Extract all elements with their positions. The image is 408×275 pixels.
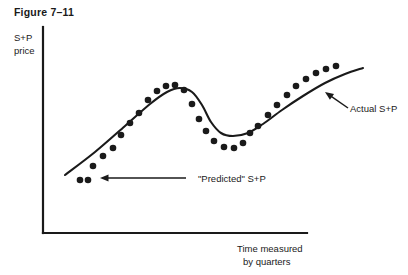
data-point-marker <box>255 123 262 130</box>
data-point-marker <box>181 87 188 94</box>
data-point-marker <box>303 76 310 83</box>
data-point-marker <box>127 120 134 127</box>
figure-container: Figure 7–11 S+P price Time measured by q… <box>0 0 408 275</box>
x-axis-label-group: Time measured by quarters <box>237 243 303 267</box>
data-point-marker <box>110 145 117 152</box>
predicted-sp-dots <box>77 63 340 184</box>
data-point-marker <box>240 140 247 147</box>
data-point-marker <box>211 138 218 145</box>
data-point-marker <box>203 128 210 135</box>
data-point-marker <box>196 116 203 123</box>
actual-sp-curve <box>65 68 363 175</box>
data-point-marker <box>77 177 84 184</box>
data-point-marker <box>85 177 92 184</box>
y-axis-label-group: S+P price <box>14 32 35 56</box>
data-point-marker <box>221 144 228 151</box>
chart-canvas: S+P price Time measured by quarters "Pre… <box>0 0 408 275</box>
data-point-marker <box>145 97 152 104</box>
data-point-marker <box>323 66 330 73</box>
data-point-marker <box>189 101 196 108</box>
actual-annotation-label: Actual S+P <box>350 103 397 114</box>
predicted-arrow-head-icon <box>100 174 109 181</box>
y-axis-label-line1: S+P <box>14 32 32 43</box>
data-point-marker <box>333 63 340 70</box>
data-point-marker <box>274 102 281 109</box>
data-point-marker <box>265 112 272 119</box>
data-point-marker <box>118 132 125 139</box>
data-point-marker <box>100 153 107 160</box>
actual-arrow-head-icon <box>325 92 334 100</box>
x-axis-label-line2: by quarters <box>243 256 291 267</box>
data-point-marker <box>163 83 170 90</box>
data-point-marker <box>172 82 179 89</box>
predicted-annotation-label: "Predicted" S+P <box>198 173 266 184</box>
data-point-marker <box>90 163 97 170</box>
data-point-marker <box>154 88 161 95</box>
data-point-marker <box>231 145 238 152</box>
y-axis-label-line2: price <box>14 45 35 56</box>
annotation-layer: "Predicted" S+P Actual S+P <box>100 92 397 184</box>
data-point-marker <box>284 92 291 99</box>
data-point-marker <box>136 110 143 117</box>
data-point-marker <box>247 130 254 137</box>
data-point-marker <box>313 70 320 77</box>
data-point-marker <box>293 83 300 90</box>
axes-group <box>43 27 307 233</box>
x-axis-label-line1: Time measured <box>237 243 303 254</box>
